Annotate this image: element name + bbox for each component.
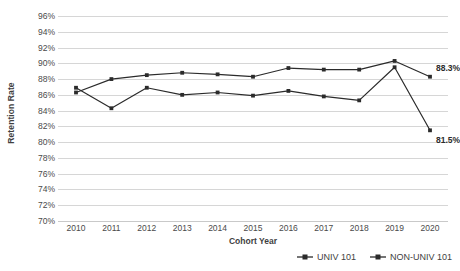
y-axis-tick-label: 78% (22, 153, 55, 163)
x-axis-tick-label: 2011 (91, 223, 131, 233)
x-axis-tick-label: 2019 (375, 223, 415, 233)
data-point-marker[interactable] (322, 68, 326, 72)
data-point-marker[interactable] (216, 72, 220, 76)
x-axis-tick-label: 2018 (339, 223, 379, 233)
data-label-815: 81.5% (436, 135, 460, 145)
y-axis-tick-label: 76% (22, 169, 55, 179)
data-point-marker[interactable] (322, 95, 326, 99)
legend-marker-icon (297, 253, 313, 261)
y-axis-tick-label: 92% (22, 43, 55, 53)
data-point-marker[interactable] (74, 86, 78, 90)
data-point-marker[interactable] (74, 91, 78, 95)
x-axis-title: Cohort Year (58, 236, 448, 246)
y-axis-tick-label: 90% (22, 58, 55, 68)
data-point-marker[interactable] (357, 98, 361, 102)
x-axis-tick-label: 2013 (162, 223, 202, 233)
x-axis-tick-label: 2010 (56, 223, 96, 233)
y-axis-tick-label: 80% (22, 137, 55, 147)
data-point-marker[interactable] (357, 68, 361, 72)
x-axis-tick-label: 2016 (268, 223, 308, 233)
data-point-marker[interactable] (110, 106, 114, 110)
series-layer (58, 16, 448, 221)
data-point-marker[interactable] (180, 93, 184, 97)
data-point-marker[interactable] (428, 75, 432, 79)
data-point-marker[interactable] (393, 65, 397, 69)
data-label-883: 88.3% (436, 63, 460, 73)
x-axis-tick-label: 2017 (304, 223, 344, 233)
legend-label: NON-UNIV 101 (390, 252, 452, 262)
y-axis-tick-label: 82% (22, 121, 55, 131)
x-axis-tick-label: 2015 (233, 223, 273, 233)
data-point-marker[interactable] (393, 59, 397, 63)
data-point-marker[interactable] (110, 77, 114, 81)
x-axis-baseline (58, 221, 448, 222)
legend-item-univ-101[interactable]: UNIV 101 (297, 252, 356, 262)
x-axis-tick-label: 2014 (198, 223, 238, 233)
y-axis-tick-label: 72% (22, 200, 55, 210)
y-axis-tick-label: 86% (22, 90, 55, 100)
data-point-marker[interactable] (180, 71, 184, 75)
data-point-marker[interactable] (428, 128, 432, 132)
series-univ-101 (74, 59, 432, 94)
data-point-marker[interactable] (251, 75, 255, 79)
y-axis-tick-label: 84% (22, 106, 55, 116)
data-point-marker[interactable] (216, 91, 220, 95)
plot-area (58, 16, 448, 221)
x-axis-tick-label: 2020 (410, 223, 450, 233)
data-point-marker[interactable] (287, 89, 291, 93)
data-point-marker[interactable] (251, 94, 255, 98)
data-point-marker[interactable] (287, 66, 291, 70)
data-point-marker[interactable] (145, 86, 149, 90)
legend-label: UNIV 101 (317, 252, 356, 262)
y-axis-tick-label: 70% (22, 216, 55, 226)
y-axis-tick-labels: 96%94%92%90%88%86%84%82%80%78%76%74%72%7… (22, 0, 58, 232)
x-axis-tick-label: 2012 (127, 223, 167, 233)
y-axis-tick-label: 94% (22, 27, 55, 37)
y-axis-tick-label: 74% (22, 184, 55, 194)
y-axis-title: Retention Rate (0, 0, 22, 225)
y-axis-tick-label: 96% (22, 11, 55, 21)
data-point-marker[interactable] (145, 73, 149, 77)
chart-legend: UNIV 101 NON-UNIV 101 (0, 252, 458, 262)
legend-item-non-univ-101[interactable]: NON-UNIV 101 (370, 252, 452, 262)
x-axis-tick-labels: 2010201120122013201420152016201720182019… (58, 223, 448, 237)
y-axis-title-label: Retention Rate (6, 82, 16, 143)
legend-marker-icon (370, 253, 386, 261)
y-axis-tick-label: 88% (22, 74, 55, 84)
